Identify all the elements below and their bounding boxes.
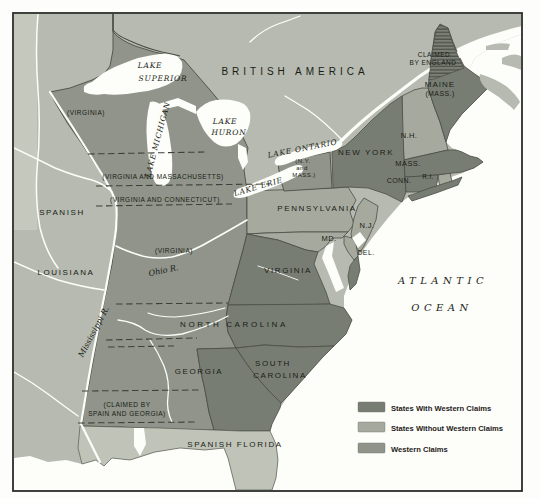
label-mass: MASS. xyxy=(395,159,420,168)
historical-map-us-western-claims: BRITISH AMERICA SPANISH LOUISIANA SPANIS… xyxy=(0,0,540,499)
label-md: MD. xyxy=(322,234,337,243)
label-claim-virginia-conn: (VIRGINIA AND CONNECTICUT) xyxy=(110,196,220,204)
label-claim-virginia-ky: (VIRGINIA) xyxy=(155,247,193,255)
label-claimed-england-1: CLAIMED xyxy=(418,51,450,58)
label-british-america: BRITISH AMERICA xyxy=(221,66,368,77)
label-ny-mass-3: MASS.) xyxy=(292,172,316,178)
label-ny-mass-2: and xyxy=(296,165,308,171)
legend-swatch-with-claims xyxy=(358,402,385,412)
label-atlantic: ATLANTIC xyxy=(397,275,488,286)
legend-label-western-claims: Western Claims xyxy=(391,445,448,454)
label-ri: R.I. xyxy=(422,173,434,180)
label-georgia: GEORGIA xyxy=(175,367,224,376)
legend-label-without-claims: States Without Western Claims xyxy=(391,424,503,433)
label-north-carolina: NORTH CAROLINA xyxy=(180,320,288,329)
map-page: BRITISH AMERICA SPANISH LOUISIANA SPANIS… xyxy=(0,0,540,499)
label-claimed-spain-2: SPAIN AND GEORGIA) xyxy=(88,410,166,418)
label-spanish: SPANISH xyxy=(39,208,85,217)
label-del: DEL. xyxy=(357,249,374,256)
legend-label-with-claims: States With Western Claims xyxy=(391,404,491,413)
label-nj: N.J. xyxy=(360,221,375,230)
label-new-york: NEW YORK xyxy=(338,148,394,157)
label-lake-huron-2: HURON xyxy=(210,128,246,137)
legend-swatch-without-claims xyxy=(358,422,385,432)
label-claim-virginia-mass: (VIRGINIA AND MASSACHUSETTS) xyxy=(102,173,223,181)
legend-swatch-western-claims xyxy=(358,443,385,453)
label-claim-virginia-nw: (VIRGINIA) xyxy=(67,109,105,117)
label-pennsylvania: PENNSYLVANIA xyxy=(277,204,356,213)
label-conn: CONN. xyxy=(387,177,412,184)
label-virginia: VIRGINIA xyxy=(264,266,312,275)
label-maine: MAINE xyxy=(425,80,455,89)
label-maine-mass: (MASS.) xyxy=(425,90,454,98)
label-ny-mass-1: (N.Y. xyxy=(295,158,310,164)
label-claimed-spain-1: (CLAIMED BY xyxy=(103,401,150,409)
label-claimed-england-2: BY ENGLAND xyxy=(410,59,457,66)
label-louisiana: LOUISIANA xyxy=(37,268,94,277)
label-spanish-florida: SPANISH FLORIDA xyxy=(187,440,282,449)
label-south-carolina-2: CAROLINA xyxy=(253,371,307,380)
label-nh: N.H. xyxy=(401,131,418,140)
label-lake-huron-1: LAKE xyxy=(212,117,238,126)
region-far-west-strip xyxy=(14,14,37,230)
label-ocean: OCEAN xyxy=(411,302,473,313)
label-south-carolina-1: SOUTH xyxy=(255,359,291,368)
label-lake-superior-1: LAKE xyxy=(137,61,163,70)
label-lake-superior-2: SUPERIOR xyxy=(139,74,188,83)
